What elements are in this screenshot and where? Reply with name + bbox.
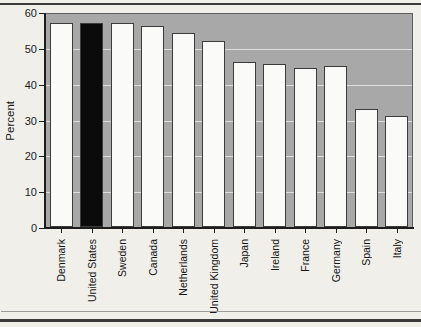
x-tick-italy <box>397 229 398 233</box>
category-label-japan: Japan <box>237 239 251 268</box>
bar-italy <box>385 116 408 227</box>
bottom-rule-thin <box>1 311 421 312</box>
x-tick-sweden <box>122 229 123 233</box>
category-label-netherlands: Netherlands <box>176 239 190 296</box>
bar-united-states <box>80 23 103 227</box>
bottom-rule-thick <box>0 319 421 322</box>
category-label-spain: Spain <box>359 239 373 266</box>
x-tick-canada <box>153 229 154 233</box>
bar-united-kingdom <box>202 41 225 227</box>
category-label-france: France <box>298 239 312 272</box>
x-tick-denmark <box>61 229 62 233</box>
category-label-sweden: Sweden <box>115 239 129 277</box>
bar-netherlands <box>172 33 195 227</box>
y-tick-label-0: 0 <box>0 221 37 235</box>
bar-canada <box>141 26 164 227</box>
y-axis-line <box>44 13 46 229</box>
x-tick-united-states <box>92 229 93 233</box>
x-tick-spain <box>366 229 367 233</box>
figure: Percent 0102030405060 DenmarkUnited Stat… <box>0 0 421 327</box>
category-label-canada: Canada <box>146 239 160 276</box>
bar-france <box>294 68 317 227</box>
category-label-united-kingdom: United Kingdom <box>207 239 221 314</box>
bar-japan <box>233 62 256 227</box>
category-label-italy: Italy <box>390 239 404 258</box>
y-tick-label-30: 30 <box>0 114 37 128</box>
x-tick-france <box>305 229 306 233</box>
x-axis-line <box>44 227 414 229</box>
x-tick-netherlands <box>183 229 184 233</box>
category-label-denmark: Denmark <box>54 239 68 282</box>
bar-denmark <box>50 23 73 227</box>
top-rule <box>0 3 421 5</box>
category-label-germany: Germany <box>329 239 343 282</box>
x-tick-germany <box>336 229 337 233</box>
bar-spain <box>355 109 378 227</box>
category-label-united-states: United States <box>85 239 99 302</box>
x-tick-united-kingdom <box>214 229 215 233</box>
y-tick-label-60: 60 <box>0 6 37 20</box>
bar-germany <box>324 66 347 227</box>
y-tick-label-50: 50 <box>0 42 37 56</box>
y-tick-label-40: 40 <box>0 78 37 92</box>
plot-area <box>45 13 413 228</box>
x-tick-ireland <box>275 229 276 233</box>
y-tick-label-10: 10 <box>0 185 37 199</box>
bar-ireland <box>263 64 286 227</box>
category-label-ireland: Ireland <box>268 239 282 271</box>
bar-sweden <box>111 23 134 227</box>
x-tick-japan <box>244 229 245 233</box>
y-tick-label-20: 20 <box>0 149 37 163</box>
